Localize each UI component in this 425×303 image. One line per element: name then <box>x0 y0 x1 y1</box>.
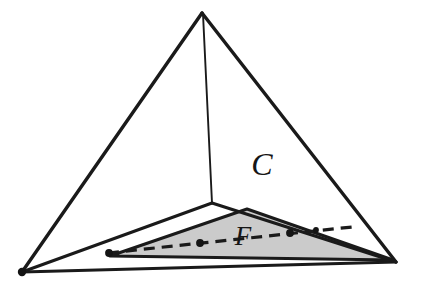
dashed-line-far-right-dot <box>313 227 319 233</box>
figure-container: C F <box>0 0 425 303</box>
label-F: F <box>234 221 252 251</box>
label-C: C <box>251 146 273 182</box>
dashed-line-left-endpoint-dot <box>105 249 113 257</box>
base-left-vertex-dot <box>18 268 26 276</box>
tetrahedron-diagram: C F <box>0 0 425 303</box>
dashed-line-right-dot <box>286 229 294 237</box>
dashed-line-mid-dot <box>196 239 204 247</box>
